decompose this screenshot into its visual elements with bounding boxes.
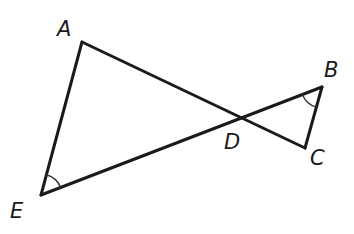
segment-ac — [82, 42, 305, 148]
segment-eb — [41, 87, 322, 195]
angle-mark-b — [302, 95, 316, 108]
label-d: D — [224, 130, 240, 154]
geometry-diagram: A B C D E — [0, 0, 354, 234]
label-a: A — [55, 17, 71, 41]
segment-ae — [41, 42, 82, 195]
angle-mark-e — [46, 175, 60, 188]
label-e: E — [10, 199, 24, 223]
label-b: B — [324, 58, 338, 82]
label-c: C — [310, 146, 325, 170]
segment-bc — [305, 87, 322, 148]
